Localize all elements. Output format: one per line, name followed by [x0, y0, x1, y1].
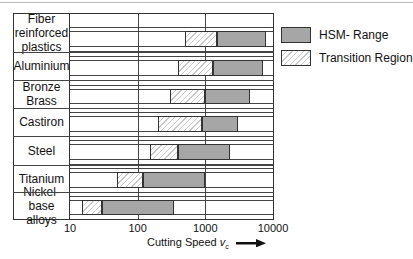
category-label: BronzeBrass [13, 80, 70, 108]
row-divider [13, 192, 274, 193]
arrow-right-icon [236, 239, 266, 247]
top-divider [0, 2, 413, 3]
hsm-range-bar [102, 200, 174, 215]
transition-region-bar [185, 31, 217, 47]
legend-label-hsm: HSM- Range [319, 28, 388, 42]
plot-row-line [70, 140, 273, 141]
category-label: Castiron [13, 108, 70, 136]
plot-row-line [70, 85, 273, 86]
row-divider [13, 165, 274, 166]
x-tick-label: 10000 [258, 222, 289, 234]
x-axis-label: Cutting Speed vc [147, 236, 229, 250]
hsm-range-bar [178, 144, 229, 160]
transition-swatch-icon [281, 50, 311, 66]
category-label: Steel [13, 136, 70, 165]
hsm-range-bar [205, 89, 249, 104]
plot-row-line [70, 112, 273, 113]
plot-row-line [70, 27, 273, 28]
hsm-swatch-icon [281, 27, 311, 43]
decade-gridline [138, 13, 139, 219]
row-divider [13, 136, 274, 137]
transition-region-bar [170, 89, 205, 104]
row-divider [13, 80, 274, 81]
hsm-range-bar [202, 116, 237, 132]
transition-region-bar [117, 172, 143, 188]
x-tick-label: 10 [64, 222, 76, 234]
legend-label-transition: Transition Region [319, 51, 413, 65]
legend-item-transition: Transition Region [281, 50, 413, 66]
hsm-range-bar [143, 172, 205, 188]
row-divider [13, 52, 274, 53]
transition-region-bar [150, 144, 179, 160]
plot-row-line [70, 56, 273, 57]
x-tick-label: 1000 [193, 222, 217, 234]
category-label: Aluminium [13, 52, 70, 80]
x-tick-label: 100 [128, 222, 146, 234]
plot-row-line [70, 196, 273, 197]
category-label: Fiberreinforcedplastics [13, 13, 70, 52]
transition-region-bar [82, 200, 102, 215]
transition-region-bar [158, 116, 202, 132]
hsm-range-bar [213, 60, 262, 76]
transition-region-bar [178, 60, 213, 76]
hsm-range-bar [217, 31, 266, 47]
category-label: Nickel-basealloys [13, 192, 70, 219]
legend-item-hsm: HSM- Range [281, 27, 388, 43]
plot-row-line [70, 168, 273, 169]
row-divider [13, 108, 274, 109]
